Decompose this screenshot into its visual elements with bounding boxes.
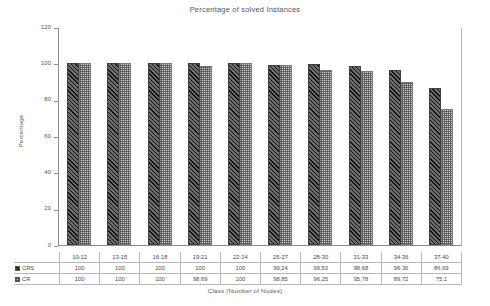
- chart-container: Percentage of solved Instances Percentag…: [0, 0, 490, 306]
- column-header: 25-27: [260, 252, 300, 263]
- column-header: 31-33: [341, 252, 381, 263]
- data-cell: 96,25: [301, 274, 341, 285]
- column-header: 22-24: [220, 252, 260, 263]
- y-tick-label: 120: [41, 24, 51, 30]
- bar-crs: [148, 63, 160, 245]
- data-table-body: 10-1213-1516-1819-2122-2425-2728-3031-33…: [14, 252, 462, 285]
- bar-cr: [160, 63, 172, 245]
- y-tick-label: 60: [44, 133, 51, 139]
- data-cell: 100: [60, 274, 100, 285]
- series-name: CR: [22, 276, 30, 282]
- bar-cr: [441, 109, 453, 245]
- bar-group: [220, 28, 260, 245]
- bar-cr: [361, 71, 373, 245]
- bar-crs: [268, 65, 280, 245]
- bar-group: [139, 28, 179, 245]
- bar-group: [180, 28, 220, 245]
- bar-group: [260, 28, 300, 245]
- series-label-cr: CR: [14, 274, 60, 285]
- bar-crs: [308, 64, 320, 245]
- column-header: 10-12: [60, 252, 100, 263]
- data-cell: 100: [180, 263, 220, 274]
- column-header: 28-30: [301, 252, 341, 263]
- y-tick-label: 100: [41, 60, 51, 66]
- plot-area: [58, 28, 462, 246]
- table-header-row: 10-1213-1516-1819-2122-2425-2728-3031-33…: [14, 252, 462, 263]
- bar-crs: [228, 63, 240, 245]
- bar-cr: [240, 63, 252, 245]
- x-axis-title: Class (Number of Nodes): [0, 287, 490, 294]
- data-cell: 100: [140, 274, 180, 285]
- data-cell: 100: [100, 274, 140, 285]
- data-cell: 100: [60, 263, 100, 274]
- data-cell: 99,24: [260, 263, 300, 274]
- data-cell: 96,36: [381, 263, 421, 274]
- legend-swatch-icon: [15, 277, 20, 282]
- y-tick-label: 80: [44, 96, 51, 102]
- bar-cr: [401, 82, 413, 245]
- chart-title: Percentage of solved Instances: [0, 5, 490, 14]
- column-header: 16-18: [140, 252, 180, 263]
- bar-groups: [59, 28, 461, 245]
- series-label-crs: CRS: [14, 263, 60, 274]
- legend-swatch-icon: [15, 266, 20, 271]
- data-cell: 100: [220, 263, 260, 274]
- bar-cr: [320, 70, 332, 245]
- data-cell: 95,78: [341, 274, 381, 285]
- data-cell: 75,1: [421, 274, 461, 285]
- column-header: 13-15: [100, 252, 140, 263]
- bar-cr: [200, 66, 212, 245]
- y-axis-ticks: 020406080100120: [0, 28, 58, 246]
- bar-group: [59, 28, 99, 245]
- table-corner-cell: [14, 252, 60, 263]
- data-cell: 100: [220, 274, 260, 285]
- bar-group: [300, 28, 340, 245]
- data-cell: 98,68: [341, 263, 381, 274]
- y-tick-label: 40: [44, 169, 51, 175]
- bar-crs: [67, 63, 79, 245]
- bar-group: [99, 28, 139, 245]
- y-tick-label: 0: [48, 242, 51, 248]
- column-header: 19-21: [180, 252, 220, 263]
- bar-crs: [107, 63, 119, 245]
- y-tick-label: 20: [44, 205, 51, 211]
- bar-crs: [349, 66, 361, 245]
- data-cell: 100: [140, 263, 180, 274]
- bar-cr: [119, 63, 131, 245]
- data-cell: 98,85: [260, 274, 300, 285]
- bar-group: [381, 28, 421, 245]
- bar-crs: [188, 63, 200, 245]
- data-cell: 99,53: [301, 263, 341, 274]
- data-table: 10-1213-1516-1819-2122-2425-2728-3031-33…: [14, 252, 462, 285]
- bar-cr: [280, 65, 292, 245]
- bar-group: [340, 28, 380, 245]
- column-header: 34-36: [381, 252, 421, 263]
- bar-cr: [79, 63, 91, 245]
- series-name: CRS: [22, 265, 34, 271]
- bar-crs: [389, 70, 401, 245]
- y-tick-mark: [54, 246, 58, 247]
- data-cell: 89,72: [381, 274, 421, 285]
- bar-crs: [429, 88, 441, 245]
- data-cell: 98,69: [180, 274, 220, 285]
- data-cell: 100: [100, 263, 140, 274]
- column-header: 37-40: [421, 252, 461, 263]
- table-row: CRS10010010010010099,2499,5398,6896,3686…: [14, 263, 462, 274]
- data-cell: 86,69: [421, 263, 461, 274]
- bar-group: [421, 28, 461, 245]
- table-row: CR10010010098,6910098,8596,2595,7889,727…: [14, 274, 462, 285]
